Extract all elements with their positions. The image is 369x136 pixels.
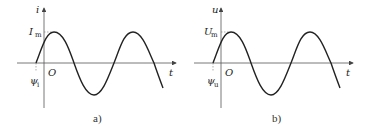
phase-subscript: u — [214, 81, 219, 89]
origin-label: O — [225, 67, 233, 78]
amplitude-subscript: m — [211, 31, 218, 39]
origin-label: O — [48, 67, 56, 78]
amplitude-label: I — [28, 26, 34, 37]
x-axis-label: t — [169, 67, 174, 78]
voltage-waveform — [213, 32, 340, 95]
caption-a: a) — [93, 112, 102, 125]
y-axis-label: i — [36, 4, 39, 15]
sinusoid-diagram: i t O I m ψ i a) u t O U m ψ u b) — [0, 0, 369, 136]
current-waveform — [36, 32, 163, 95]
phase-subscript: i — [37, 81, 40, 89]
caption-b: b) — [272, 112, 282, 125]
y-axis-label: u — [212, 4, 218, 15]
x-axis-label: t — [346, 67, 351, 78]
amplitude-subscript: m — [35, 31, 42, 39]
panel-a: i t O I m ψ i a) — [17, 4, 176, 125]
panel-b: u t O U m ψ u b) — [194, 4, 353, 125]
